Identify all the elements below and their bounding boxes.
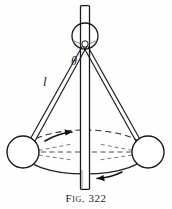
figure-caption-number: 322	[89, 192, 107, 204]
figure-caption: Fig. 322	[0, 192, 172, 204]
conical-pendulum-diagram	[0, 0, 172, 209]
left-bob	[7, 136, 39, 168]
figure-322: l θ Fig. 322	[0, 0, 172, 209]
right-arm	[83, 45, 146, 152]
angle-label: θ	[71, 54, 77, 69]
figure-caption-prefix: Fig.	[65, 192, 85, 204]
right-bob	[132, 136, 164, 168]
arm-length-label: l	[43, 74, 47, 90]
orbit-arrow-right	[45, 129, 72, 141]
vertical-rotating-shaft	[80, 5, 90, 190]
pivot-joint	[82, 41, 88, 47]
